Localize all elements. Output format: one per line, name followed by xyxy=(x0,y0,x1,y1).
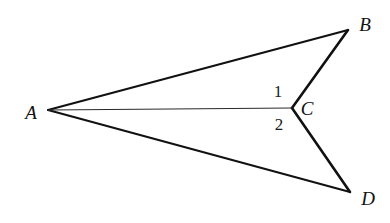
angle-label-1: 1 xyxy=(274,83,283,100)
angle-label-2: 2 xyxy=(275,116,284,133)
geometry-figure: A B C D 1 2 xyxy=(0,0,390,223)
segment-ad xyxy=(48,110,350,192)
figure-svg xyxy=(0,0,390,223)
vertex-label-a: A xyxy=(25,103,37,122)
segment-ac-diagonal xyxy=(48,108,292,110)
vertex-label-d: D xyxy=(361,189,375,208)
vertex-label-c: C xyxy=(301,99,314,118)
vertex-label-b: B xyxy=(359,15,371,34)
